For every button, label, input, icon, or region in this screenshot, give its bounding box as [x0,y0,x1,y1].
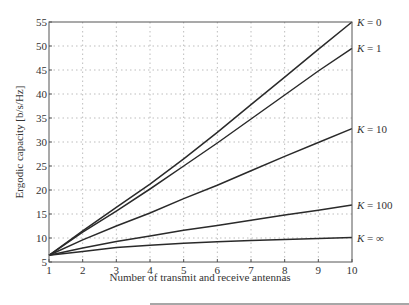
y-tick-label: 35 [36,112,48,124]
y-tick-label: 15 [36,208,48,220]
series-label-4: K = ∞ [356,232,384,244]
x-tick-label: 9 [316,264,322,276]
y-tick-label: 20 [36,184,48,196]
y-axis-label: Ergodic capacity [b/s/Hz] [13,86,25,199]
x-tick-label: 10 [347,264,359,276]
x-axis-label: Number of transmit and receive antennas [109,271,290,283]
y-axis-ticks: 510152025303540455055 [36,16,52,268]
y-tick-label: 55 [36,16,48,28]
x-tick-label: 2 [80,264,86,276]
series-line-1 [49,48,352,255]
capacity-chart: 510152025303540455055 12345678910 K = 0K… [0,0,409,305]
series-line-0 [49,22,352,255]
series-label-1: K = 1 [356,42,382,54]
y-tick-label: 45 [36,64,48,76]
y-tick-label: 40 [36,88,48,100]
series-line-3 [49,205,352,255]
x-tick-label: 1 [46,264,52,276]
series-labels: K = 0K = 1K = 10K = 100K = ∞ [356,16,393,244]
y-tick-label: 50 [36,40,48,52]
series-label-2: K = 10 [356,123,388,135]
y-tick-label: 30 [36,136,48,148]
series-line-2 [49,129,352,256]
series-label-3: K = 100 [356,199,393,211]
grid-lines [49,22,352,262]
y-tick-label: 10 [36,232,48,244]
data-series [49,22,352,255]
y-tick-label: 25 [36,160,48,172]
series-label-0: K = 0 [356,16,382,28]
